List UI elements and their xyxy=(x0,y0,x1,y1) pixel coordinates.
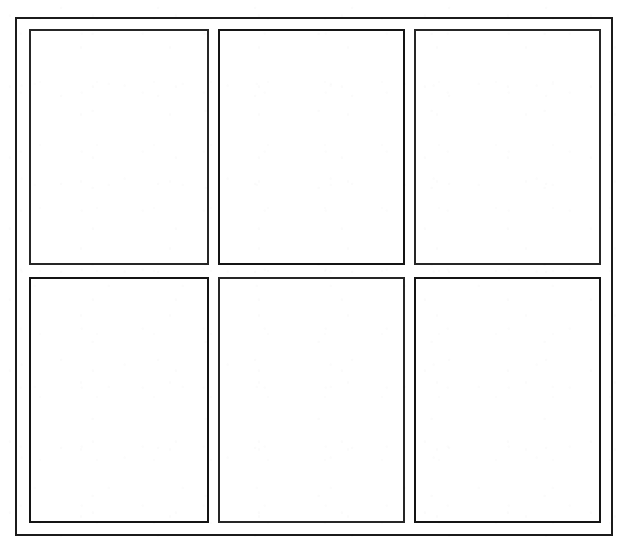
panel-row1-col1[interactable] xyxy=(29,29,209,265)
panel-row1-col2[interactable] xyxy=(218,29,405,265)
clipped-header-strip xyxy=(0,0,625,8)
panel-row2-col3[interactable] xyxy=(414,277,601,523)
panel-row2-col2[interactable] xyxy=(218,277,405,523)
panel-row2-col1[interactable] xyxy=(29,277,209,523)
panel-grid xyxy=(29,29,601,523)
panel-row1-col3[interactable] xyxy=(414,29,601,265)
scanned-page xyxy=(0,0,625,548)
